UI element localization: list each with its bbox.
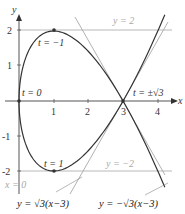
x-tick-4: 4 xyxy=(155,106,160,117)
label-y-neg2: y = −2 xyxy=(105,158,134,169)
point-t-sqrt3 xyxy=(121,99,125,103)
x-tick-3: 3 xyxy=(121,106,126,117)
y-axis-arrow-icon xyxy=(16,14,22,21)
y-axis-label: y xyxy=(11,4,17,15)
label-t0: t = 0 xyxy=(22,87,42,98)
label-y2: y = 2 xyxy=(112,15,134,26)
x-tick-2: 2 xyxy=(85,106,90,117)
label-t1: t = 1 xyxy=(44,158,64,169)
x-tick-1: 1 xyxy=(51,106,56,117)
y-tick-neg1: -1 xyxy=(2,131,10,142)
callout-line-positive xyxy=(56,177,82,192)
callout-line-negative xyxy=(145,183,168,195)
x-axis-label: x xyxy=(177,95,183,106)
parametric-curve-diagram: x y 1 2 3 4 2 1 -1 -2 t = 0 t = −1 t = 1… xyxy=(0,0,185,214)
x-axis-arrow-icon xyxy=(171,98,178,104)
label-x0: x = 0 xyxy=(4,179,26,190)
point-t0 xyxy=(17,99,21,103)
y-tick-2: 2 xyxy=(7,25,12,36)
label-t-sqrt3: t = ±√3 xyxy=(133,87,164,98)
label-positive-tangent: y = √3(x−3) xyxy=(16,198,70,210)
point-t-neg1 xyxy=(52,28,56,32)
y-tick-1: 1 xyxy=(7,60,12,71)
y-tick-neg2: -2 xyxy=(2,166,10,177)
point-t1 xyxy=(52,169,56,173)
label-negative-tangent: y = −√3(x−3) xyxy=(98,198,159,210)
label-t-neg1: t = −1 xyxy=(38,37,64,48)
